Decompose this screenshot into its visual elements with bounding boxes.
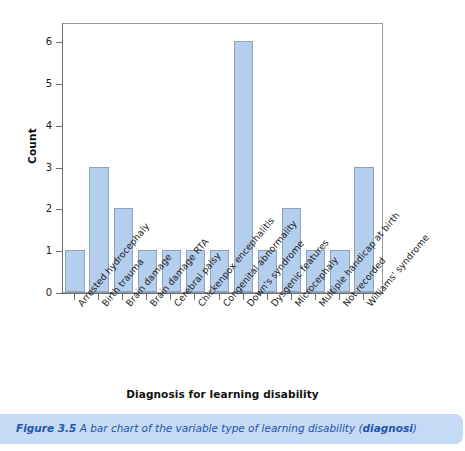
figure-caption-band: Figure 3.5 A bar chart of the variable t… bbox=[0, 414, 463, 444]
plot-area bbox=[63, 24, 382, 292]
x-axis-tick bbox=[291, 294, 292, 300]
caption-variable-name: diagnosi bbox=[363, 422, 413, 434]
x-axis-tick bbox=[219, 294, 220, 300]
x-axis-tick bbox=[122, 294, 123, 300]
caption-text-end: ) bbox=[413, 422, 417, 434]
y-axis-tick bbox=[56, 209, 62, 210]
x-axis-title: Diagnosis for learning disability bbox=[62, 388, 383, 400]
y-axis-tick-label: 5 bbox=[32, 79, 52, 89]
y-axis-tick-label: 3 bbox=[32, 163, 52, 173]
caption-text-main: A bar chart of the variable type of lear… bbox=[80, 422, 363, 434]
x-axis-tick bbox=[315, 294, 316, 300]
x-axis-tick bbox=[98, 294, 99, 300]
y-axis-tick-label: 2 bbox=[32, 204, 52, 214]
y-axis-tick bbox=[56, 84, 62, 85]
x-axis-tick bbox=[363, 294, 364, 300]
bar bbox=[65, 250, 84, 292]
x-axis-tick bbox=[339, 294, 340, 300]
x-axis-tick bbox=[194, 294, 195, 300]
y-axis-tick bbox=[56, 126, 62, 127]
y-axis-tick-label: 0 bbox=[32, 288, 52, 298]
x-axis-tick bbox=[74, 294, 75, 300]
figure-caption: Figure 3.5 A bar chart of the variable t… bbox=[16, 422, 417, 434]
y-axis-line bbox=[62, 23, 63, 294]
x-axis-tick bbox=[146, 294, 147, 300]
y-axis-tick bbox=[56, 251, 62, 252]
y-axis-tick bbox=[56, 168, 62, 169]
y-axis-tick-label: 4 bbox=[32, 121, 52, 131]
y-axis-tick-label: 1 bbox=[32, 246, 52, 256]
figure-number: Figure 3.5 bbox=[16, 422, 76, 434]
x-axis-tick bbox=[267, 294, 268, 300]
y-axis-tick-label: 6 bbox=[32, 37, 52, 47]
plot-frame bbox=[62, 23, 383, 293]
figure-bar-chart: Count 0123456 Arrested hydrocephalyBirth… bbox=[0, 0, 465, 405]
x-axis-tick bbox=[243, 294, 244, 300]
y-axis-tick bbox=[56, 42, 62, 43]
x-axis-tick bbox=[170, 294, 171, 300]
